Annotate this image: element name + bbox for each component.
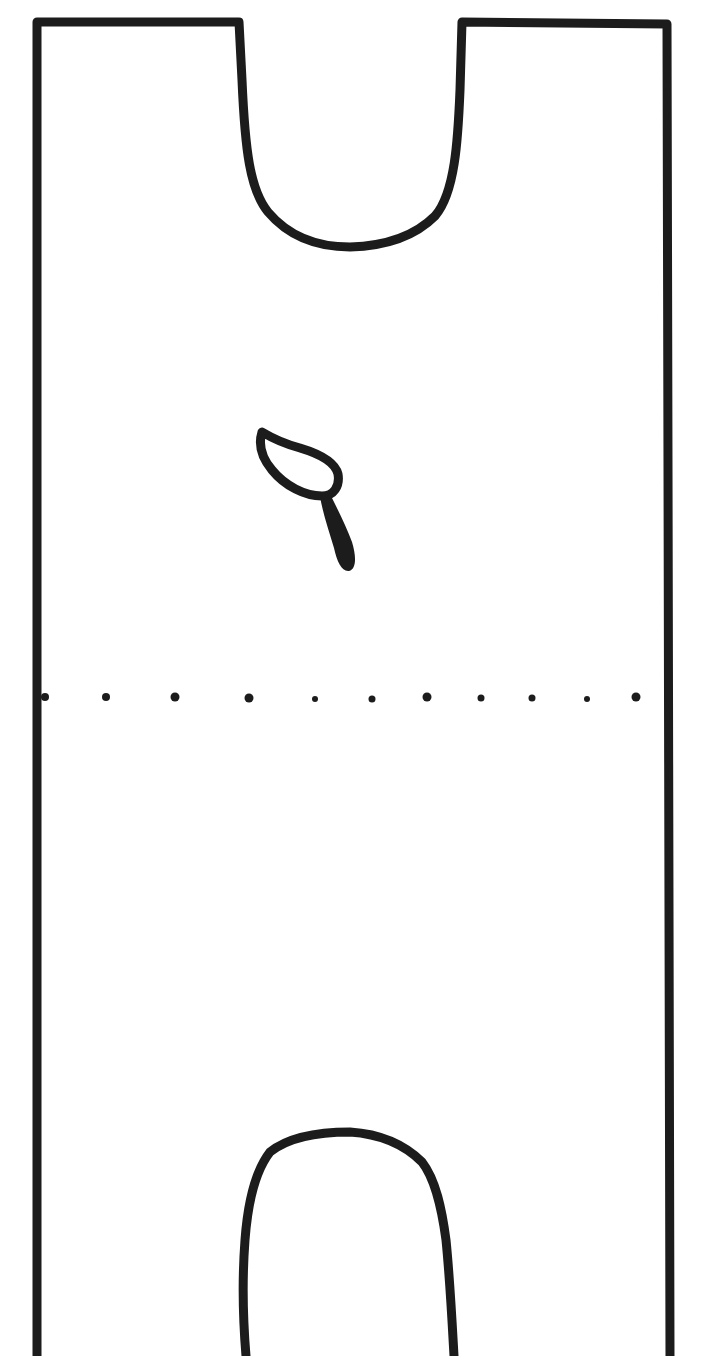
leaf-glyph-loop [260, 432, 338, 496]
outer-outline [37, 22, 670, 1356]
bottom-arch [243, 1132, 454, 1356]
fold-dot [423, 693, 432, 702]
fold-dot [312, 696, 318, 702]
diagram-canvas: pattern-piece [0, 0, 701, 1356]
leaf-glyph-tail [320, 494, 355, 571]
fold-line [41, 693, 641, 703]
fold-dot [41, 693, 49, 701]
fold-dot [529, 695, 536, 702]
fold-dot [245, 694, 254, 703]
fold-dot [171, 693, 180, 702]
fold-dot [102, 693, 110, 701]
fold-dot [369, 696, 376, 703]
fold-dot [632, 693, 641, 702]
pattern-drawing [0, 0, 701, 1356]
fold-dot [584, 696, 590, 702]
fold-dot [478, 695, 485, 702]
